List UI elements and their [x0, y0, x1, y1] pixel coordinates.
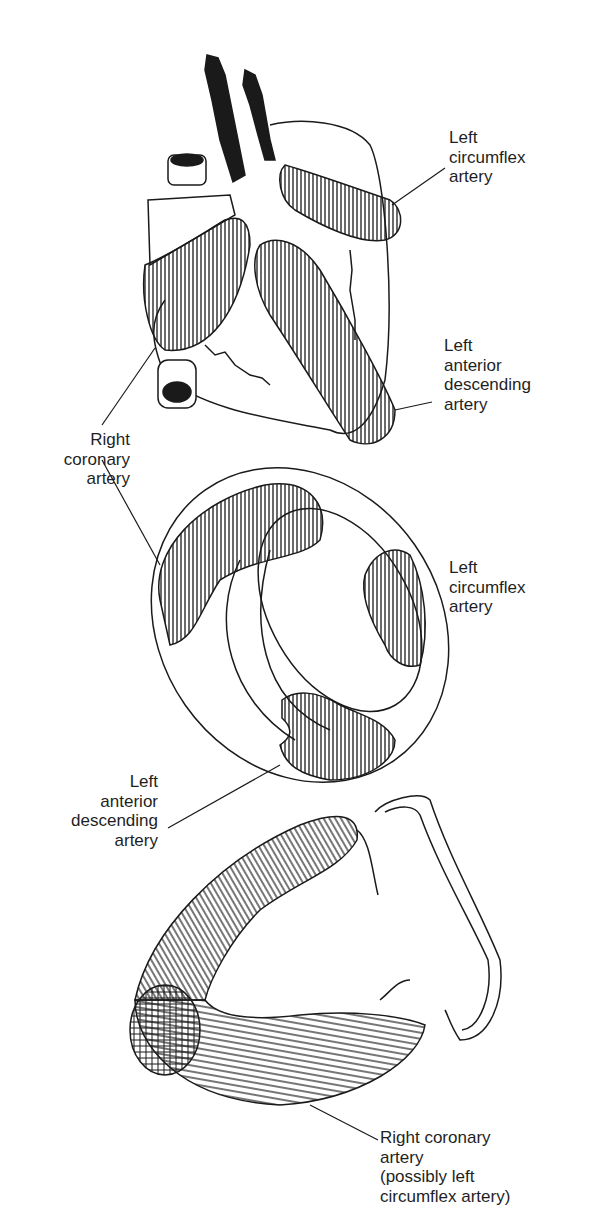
label-left-circumflex-artery-middle: Left circumflex artery	[449, 558, 526, 617]
lad-territory	[135, 817, 357, 1000]
long-axis-panel	[130, 796, 501, 1105]
lcx-territory	[280, 165, 401, 241]
label-right-coronary-artery-bottom: Right coronary artery (possibly left cir…	[380, 1128, 510, 1206]
label-right-coronary-artery-top: Right coronary artery	[30, 430, 130, 489]
label-left-anterior-descending-artery-middle: Left anterior descending artery	[30, 772, 158, 850]
label-left-circumflex-artery-top: Left circumflex artery	[449, 128, 526, 187]
anterior-heart-panel	[144, 55, 401, 444]
lad-territory	[255, 240, 395, 443]
label-left-anterior-descending-artery-top: Left anterior descending artery	[444, 336, 531, 414]
apex-overlap	[130, 985, 200, 1075]
